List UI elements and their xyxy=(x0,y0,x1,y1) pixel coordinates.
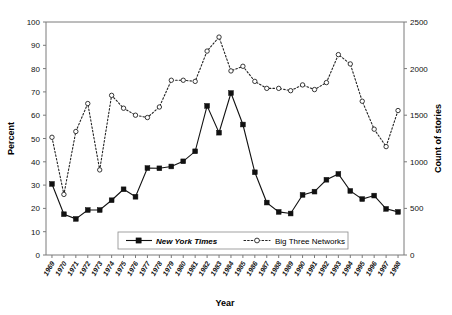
data-point xyxy=(324,80,328,84)
data-point xyxy=(288,211,293,216)
data-point xyxy=(62,192,66,196)
data-point xyxy=(372,193,377,198)
legend-marker-circle xyxy=(255,238,260,243)
left-axis-tick-label: 80 xyxy=(31,65,40,74)
data-point xyxy=(360,197,365,202)
chart-container: 0102030405060708090100050010001500200025… xyxy=(0,0,452,315)
left-axis-title: Percent xyxy=(6,122,16,155)
data-point xyxy=(205,49,209,53)
data-point xyxy=(98,168,102,172)
data-point xyxy=(252,170,257,175)
data-point xyxy=(217,130,222,135)
data-point xyxy=(264,200,269,205)
data-point xyxy=(169,164,174,169)
data-point xyxy=(360,99,364,103)
data-point xyxy=(348,62,352,66)
left-axis-tick-label: 90 xyxy=(31,41,40,50)
data-point xyxy=(133,194,138,199)
data-point xyxy=(372,127,376,131)
data-point xyxy=(193,149,198,154)
x-axis-title: Year xyxy=(215,298,235,308)
data-point xyxy=(133,113,137,117)
data-point xyxy=(277,86,281,90)
data-point xyxy=(86,101,90,105)
x-axis-tick-label: 1998 xyxy=(388,260,402,277)
data-point xyxy=(50,135,54,139)
data-point xyxy=(348,189,353,194)
left-axis-tick-label: 60 xyxy=(31,111,40,120)
data-point xyxy=(300,83,304,87)
line-chart: 0102030405060708090100050010001500200025… xyxy=(0,0,452,315)
data-point xyxy=(336,52,340,56)
data-point xyxy=(396,108,400,112)
data-point xyxy=(73,216,78,221)
right-axis-tick-label: 1500 xyxy=(410,111,428,120)
data-point xyxy=(50,182,55,187)
data-point xyxy=(205,103,210,108)
left-axis-tick-label: 0 xyxy=(36,251,41,260)
data-point xyxy=(181,78,185,82)
data-point xyxy=(276,210,281,215)
data-point xyxy=(157,166,162,171)
chart-legend: New York TimesBig Three Networks xyxy=(118,232,348,249)
data-point xyxy=(217,35,221,39)
data-point xyxy=(169,78,173,82)
data-point xyxy=(312,189,317,194)
data-point xyxy=(229,69,233,73)
left-axis-tick-label: 70 xyxy=(31,88,40,97)
legend-marker-square xyxy=(136,238,141,243)
legend-label-big-three-networks: Big Three Networks xyxy=(275,237,345,246)
data-point xyxy=(121,106,125,110)
data-point xyxy=(109,93,113,97)
left-axis-tick-label: 20 xyxy=(31,204,40,213)
data-point xyxy=(324,177,329,182)
data-point xyxy=(241,64,245,68)
data-point xyxy=(109,198,114,203)
series-line xyxy=(52,93,398,219)
data-point xyxy=(145,115,149,119)
right-axis-title: Count of stories xyxy=(433,104,443,173)
series-line xyxy=(52,37,398,194)
data-point xyxy=(253,79,257,83)
data-point xyxy=(241,122,246,127)
data-point xyxy=(288,88,292,92)
data-point xyxy=(396,210,401,215)
data-point xyxy=(336,172,341,177)
data-point xyxy=(229,91,234,96)
data-point xyxy=(384,206,389,211)
right-axis-tick-label: 2500 xyxy=(410,18,428,27)
data-point xyxy=(157,105,161,109)
right-axis-tick-label: 1000 xyxy=(410,158,428,167)
series-big-three-networks xyxy=(50,35,400,197)
data-point xyxy=(97,208,102,213)
data-point xyxy=(384,144,388,148)
data-point xyxy=(74,129,78,133)
right-axis-tick-label: 0 xyxy=(410,251,415,260)
data-point xyxy=(193,79,197,83)
data-point xyxy=(62,212,67,217)
data-point xyxy=(265,86,269,90)
left-axis-tick-label: 100 xyxy=(27,18,41,27)
data-point xyxy=(85,208,90,213)
legend-label-new-york-times: New York Times xyxy=(156,237,218,246)
left-axis-tick-label: 40 xyxy=(31,158,40,167)
data-point xyxy=(312,87,316,91)
right-axis-tick-label: 500 xyxy=(410,204,424,213)
data-point xyxy=(145,166,150,171)
data-point xyxy=(300,192,305,197)
data-point xyxy=(181,159,186,164)
left-axis-tick-label: 30 xyxy=(31,181,40,190)
data-point xyxy=(121,187,126,192)
left-axis-tick-label: 10 xyxy=(31,228,40,237)
right-axis-tick-label: 2000 xyxy=(410,65,428,74)
left-axis-tick-label: 50 xyxy=(31,135,40,144)
